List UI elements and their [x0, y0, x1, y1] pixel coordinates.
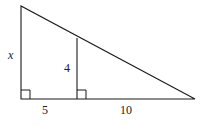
label-right-base: 10 [120, 104, 132, 116]
label-left-base: 5 [42, 104, 48, 116]
right-angle-marker-left-icon [21, 90, 30, 99]
label-left-leg: x [8, 49, 13, 61]
large-right-triangle [21, 6, 195, 99]
right-angle-marker-inner-icon [77, 90, 86, 99]
triangle-figure-svg [0, 0, 206, 125]
label-inner-leg: 4 [64, 62, 70, 74]
geometry-diagram: x 4 5 10 [0, 0, 206, 125]
